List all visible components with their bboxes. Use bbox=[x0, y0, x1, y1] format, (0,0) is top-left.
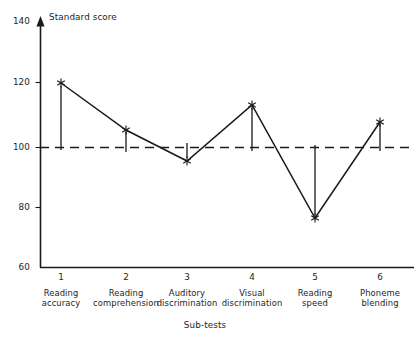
x-tick-label-5: 5 bbox=[295, 272, 335, 282]
data-point-marker-2 bbox=[122, 126, 130, 135]
x-tick-label-2: 2 bbox=[106, 272, 146, 282]
y-tick-label-80: 80 bbox=[4, 202, 30, 212]
y-tick-label-100: 100 bbox=[4, 142, 30, 152]
x-tick-label-1: 1 bbox=[41, 272, 81, 282]
data-series-line bbox=[61, 83, 380, 218]
y-tick-label-120: 120 bbox=[4, 77, 30, 87]
x-tick-label-3: 3 bbox=[167, 272, 207, 282]
data-point-markers bbox=[57, 79, 384, 223]
y-tick-label-140: 140 bbox=[4, 16, 30, 26]
x-tick-label-4: 4 bbox=[232, 272, 272, 282]
data-drop-lines bbox=[61, 86, 380, 215]
y-tick-label-60: 60 bbox=[4, 262, 30, 272]
y-axis bbox=[36, 16, 44, 268]
x-category-label-6: Phoneme blending bbox=[342, 289, 417, 308]
x-axis-title: Sub-tests bbox=[160, 320, 250, 330]
x-tick-label-6: 6 bbox=[360, 272, 400, 282]
data-point-marker-1 bbox=[57, 79, 65, 88]
x-category-label-6-line2: blending bbox=[342, 299, 417, 309]
standard-score-chart: 140 120 100 80 60 Standard score 1 2 3 4… bbox=[0, 0, 417, 339]
y-axis-title: Standard score bbox=[49, 12, 117, 22]
